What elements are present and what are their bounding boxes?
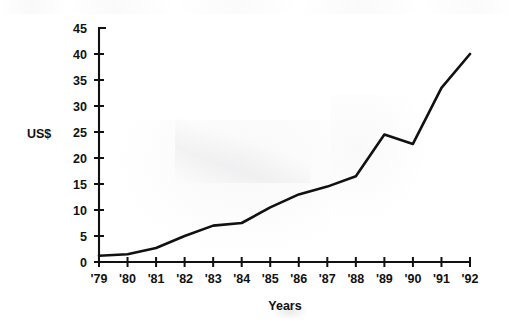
x-tick-label: '85	[262, 272, 279, 286]
x-axis-tick-labels: '79'80'81'82'83'84'85'86'87'88'89'90'91'…	[91, 272, 479, 286]
chart-plot-area: 051015202530354045 '79'80'81'82'83'84'85…	[0, 0, 515, 328]
y-tick-label: 40	[73, 48, 87, 62]
x-tick-label: '81	[148, 272, 165, 286]
y-axis-tick-labels: 051015202530354045	[73, 22, 87, 270]
y-axis-title: US$	[27, 127, 51, 141]
y-tick-label: 30	[73, 100, 87, 114]
y-tick-label: 45	[73, 22, 87, 36]
data-series-line	[99, 54, 470, 256]
y-tick-label: 15	[73, 178, 87, 192]
x-tick-label: '86	[290, 272, 307, 286]
y-tick-label: 5	[80, 230, 87, 244]
y-tick-label: 20	[73, 152, 87, 166]
x-tick-label: '89	[376, 272, 393, 286]
x-tick-label: '90	[404, 272, 421, 286]
y-tick-label: 25	[73, 126, 87, 140]
x-tick-label: '84	[233, 272, 250, 286]
x-tick-label: '83	[205, 272, 222, 286]
y-tick-label: 35	[73, 74, 87, 88]
x-tick-label: '82	[176, 272, 193, 286]
y-tick-label: 10	[73, 204, 87, 218]
x-tick-label: '80	[119, 272, 136, 286]
x-tick-label: '79	[91, 272, 108, 286]
x-tick-label: '87	[319, 272, 336, 286]
x-axis-title: Years	[268, 299, 301, 313]
line-chart-figure: 051015202530354045 '79'80'81'82'83'84'85…	[0, 0, 515, 328]
x-tick-label: '91	[433, 272, 450, 286]
x-tick-label: '88	[347, 272, 364, 286]
y-tick-label: 0	[80, 256, 87, 270]
x-tick-label: '92	[462, 272, 479, 286]
